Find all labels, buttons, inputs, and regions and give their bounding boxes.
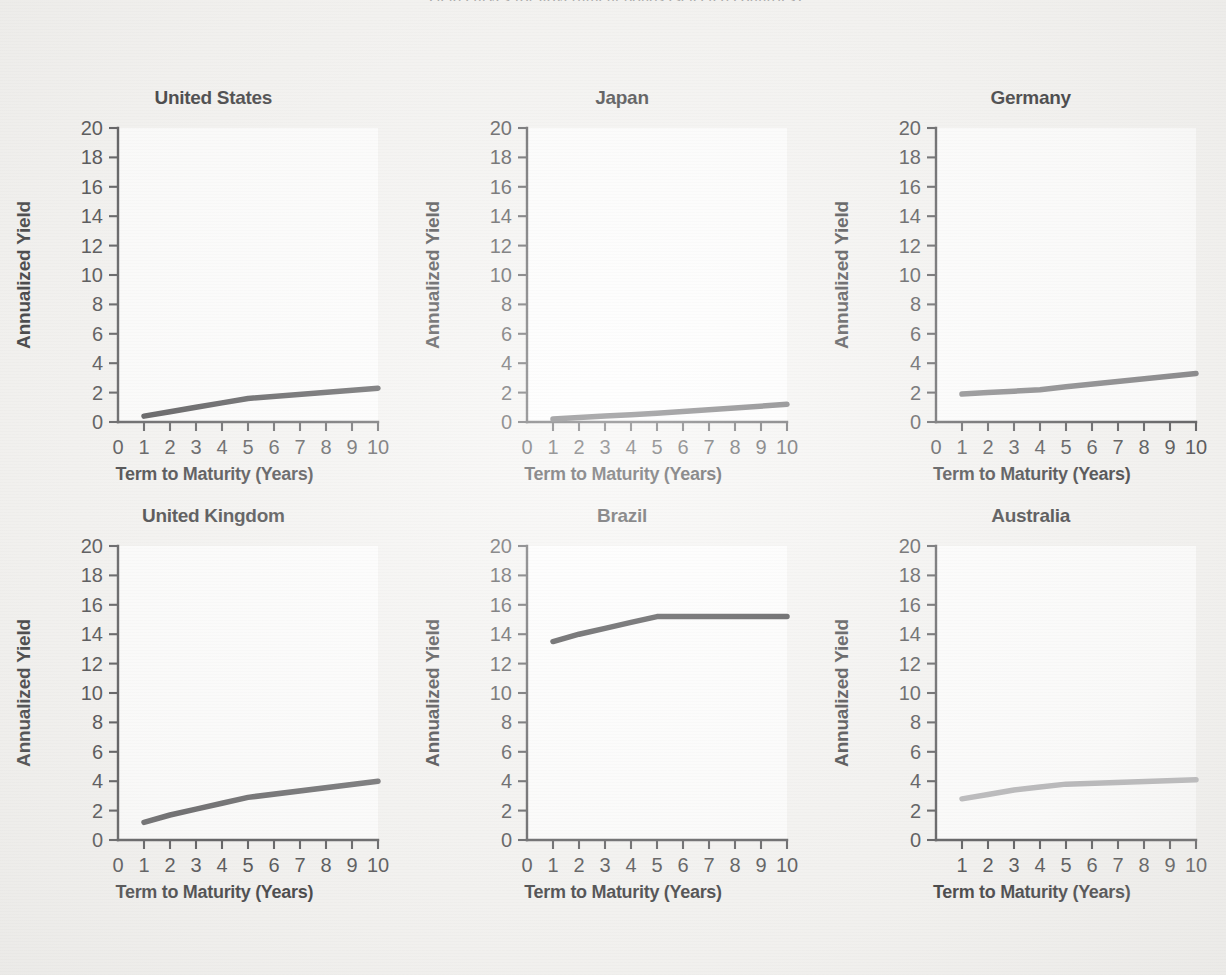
y-tick-label: 12 bbox=[490, 235, 512, 257]
y-tick-label: 14 bbox=[81, 623, 103, 645]
x-tick-label: 7 bbox=[295, 854, 306, 876]
chart-panel-brazil: Brazil02468101214161820012345678910Annua… bbox=[409, 476, 818, 894]
chart-panel-united-kingdom: United Kingdom02468101214161820012345678… bbox=[0, 476, 409, 894]
plot-area-wrapper: 02468101214161820012345678910Annualized … bbox=[409, 528, 818, 888]
plot-background bbox=[527, 128, 787, 422]
x-tick-label: 3 bbox=[599, 854, 610, 876]
chart-panel-japan: Japan02468101214161820012345678910Annual… bbox=[409, 58, 818, 476]
y-tick-label: 6 bbox=[501, 323, 512, 345]
y-tick-label: 8 bbox=[910, 711, 921, 733]
y-tick-label: 4 bbox=[501, 352, 512, 374]
x-tick-label: 5 bbox=[651, 436, 662, 458]
y-tick-label: 10 bbox=[81, 682, 103, 704]
y-tick-label: 20 bbox=[898, 117, 920, 139]
y-tick-label: 14 bbox=[490, 623, 512, 645]
y-tick-label: 16 bbox=[490, 594, 512, 616]
x-tick-label: 10 bbox=[776, 854, 798, 876]
y-axis-title: Annualized Yield bbox=[13, 201, 34, 349]
y-axis-title: Annualized Yield bbox=[13, 619, 34, 767]
y-tick-label: 14 bbox=[898, 205, 920, 227]
x-tick-label: 5 bbox=[243, 854, 254, 876]
x-tick-label: 10 bbox=[367, 854, 389, 876]
x-tick-label: 3 bbox=[599, 436, 610, 458]
y-tick-label: 2 bbox=[910, 382, 921, 404]
plot-svg: 02468101214161820012345678910Annualized … bbox=[0, 110, 408, 470]
y-tick-label: 16 bbox=[898, 176, 920, 198]
y-tick-label: 18 bbox=[490, 146, 512, 168]
y-tick-label: 20 bbox=[81, 117, 103, 139]
x-tick-label: 6 bbox=[677, 436, 688, 458]
plot-area-wrapper: 02468101214161820012345678910Annualized … bbox=[817, 110, 1226, 470]
y-tick-label: 0 bbox=[92, 411, 103, 433]
x-tick-label: 8 bbox=[321, 436, 332, 458]
plot-area-wrapper: 0246810121416182012345678910Annualized Y… bbox=[817, 528, 1226, 888]
x-tick-label: 4 bbox=[217, 436, 228, 458]
chart-title: Brazil bbox=[409, 476, 818, 528]
x-tick-label: 10 bbox=[1185, 436, 1207, 458]
y-tick-label: 8 bbox=[501, 293, 512, 315]
chart-grid: United States024681012141618200123456789… bbox=[0, 58, 1226, 894]
plot-svg: 0246810121416182012345678910Annualized Y… bbox=[818, 528, 1226, 888]
x-tick-label: 3 bbox=[191, 436, 202, 458]
y-tick-label: 2 bbox=[910, 800, 921, 822]
x-tick-label: 6 bbox=[269, 436, 280, 458]
y-tick-label: 8 bbox=[501, 711, 512, 733]
x-tick-label: 2 bbox=[165, 854, 176, 876]
y-tick-label: 2 bbox=[92, 382, 103, 404]
x-tick-label: 9 bbox=[1164, 436, 1175, 458]
x-tick-label: 0 bbox=[930, 436, 941, 458]
x-tick-label: 7 bbox=[295, 436, 306, 458]
x-tick-label: 5 bbox=[1060, 436, 1071, 458]
x-tick-label: 0 bbox=[113, 436, 124, 458]
y-tick-label: 18 bbox=[81, 564, 103, 586]
y-tick-label: 6 bbox=[92, 323, 103, 345]
x-tick-label: 2 bbox=[982, 854, 993, 876]
y-tick-label: 12 bbox=[81, 235, 103, 257]
plot-area-wrapper: 02468101214161820012345678910Annualized … bbox=[409, 110, 818, 470]
y-tick-label: 20 bbox=[898, 535, 920, 557]
chart-panel-germany: Germany02468101214161820012345678910Annu… bbox=[817, 58, 1226, 476]
cropped-figure-caption: Yield curves for government bonds (selec… bbox=[0, 0, 1226, 1]
plot-svg: 02468101214161820012345678910Annualized … bbox=[409, 528, 817, 888]
x-tick-label: 8 bbox=[729, 436, 740, 458]
x-tick-label: 8 bbox=[1138, 854, 1149, 876]
y-tick-label: 12 bbox=[898, 653, 920, 675]
y-tick-label: 10 bbox=[898, 264, 920, 286]
y-tick-label: 16 bbox=[898, 594, 920, 616]
x-tick-label: 6 bbox=[1086, 436, 1097, 458]
y-tick-label: 0 bbox=[501, 411, 512, 433]
y-tick-label: 6 bbox=[910, 741, 921, 763]
y-tick-label: 8 bbox=[910, 293, 921, 315]
plot-svg: 02468101214161820012345678910Annualized … bbox=[0, 528, 408, 888]
x-tick-label: 4 bbox=[1034, 854, 1045, 876]
x-tick-label: 4 bbox=[625, 436, 636, 458]
x-tick-label: 7 bbox=[703, 436, 714, 458]
x-tick-label: 10 bbox=[367, 436, 389, 458]
chart-title: Germany bbox=[817, 58, 1226, 110]
y-tick-label: 16 bbox=[490, 176, 512, 198]
plot-background bbox=[527, 546, 787, 840]
plot-area-wrapper: 02468101214161820012345678910Annualized … bbox=[0, 110, 409, 470]
y-tick-label: 20 bbox=[81, 535, 103, 557]
y-tick-label: 14 bbox=[81, 205, 103, 227]
x-tick-label: 5 bbox=[651, 854, 662, 876]
y-tick-label: 12 bbox=[898, 235, 920, 257]
y-axis-title: Annualized Yield bbox=[831, 201, 852, 349]
y-tick-label: 4 bbox=[92, 770, 103, 792]
y-tick-label: 16 bbox=[81, 176, 103, 198]
x-tick-label: 7 bbox=[1112, 436, 1123, 458]
x-tick-label: 3 bbox=[1008, 436, 1019, 458]
y-tick-label: 2 bbox=[92, 800, 103, 822]
y-tick-label: 8 bbox=[92, 293, 103, 315]
chart-panel-australia: Australia0246810121416182012345678910Ann… bbox=[817, 476, 1226, 894]
y-tick-label: 14 bbox=[898, 623, 920, 645]
y-tick-label: 18 bbox=[490, 564, 512, 586]
y-tick-label: 14 bbox=[490, 205, 512, 227]
x-tick-label: 8 bbox=[1138, 436, 1149, 458]
x-tick-label: 4 bbox=[1034, 436, 1045, 458]
x-tick-label: 2 bbox=[573, 436, 584, 458]
y-tick-label: 10 bbox=[490, 264, 512, 286]
x-tick-label: 1 bbox=[139, 854, 150, 876]
plot-area-wrapper: 02468101214161820012345678910Annualized … bbox=[0, 528, 409, 888]
y-tick-label: 16 bbox=[81, 594, 103, 616]
